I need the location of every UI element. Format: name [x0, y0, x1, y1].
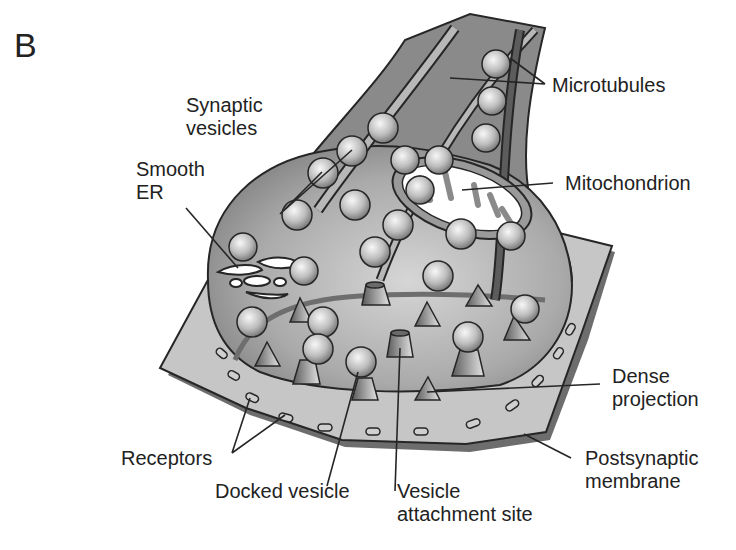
- label-microtubules: Microtubules: [552, 74, 665, 97]
- label-docked-vesicle: Docked vesicle: [215, 480, 350, 503]
- panel-letter: B: [14, 26, 37, 64]
- label-postsynaptic-membrane: Postsynaptic membrane: [585, 447, 698, 493]
- label-synaptic-vesicles: Synaptic vesicles: [186, 94, 263, 140]
- label-vesicle-attachment-site: Vesicle attachment site: [397, 480, 533, 526]
- label-mitochondrion: Mitochondrion: [565, 172, 691, 195]
- label-smooth-er: Smooth ER: [136, 158, 205, 204]
- label-receptors: Receptors: [121, 447, 212, 470]
- label-dense-projection: Dense projection: [612, 365, 699, 411]
